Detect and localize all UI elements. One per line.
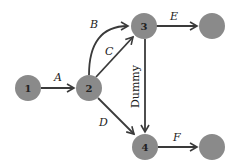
edge-label-e: E	[169, 10, 178, 23]
node-5	[199, 13, 225, 39]
edge-label-a: A	[53, 71, 62, 84]
node-6	[199, 134, 225, 160]
node-1: 1	[15, 75, 41, 101]
svg-text:1: 1	[25, 83, 32, 94]
node-4: 4	[132, 134, 158, 160]
edge-label-b: B	[89, 18, 98, 31]
node-2: 2	[76, 75, 102, 101]
network-diagram: A B C D E F Dummy 1 2 3 4	[0, 0, 238, 168]
svg-text:2: 2	[86, 83, 93, 94]
edge-label-c: C	[105, 45, 114, 58]
node-3: 3	[131, 13, 157, 39]
edge-label-f: F	[172, 131, 181, 144]
edge-label-dummy: Dummy	[129, 64, 142, 108]
svg-text:4: 4	[142, 142, 149, 153]
edge-c	[96, 37, 133, 77]
svg-text:3: 3	[141, 21, 148, 32]
edge-label-d: D	[98, 116, 108, 129]
